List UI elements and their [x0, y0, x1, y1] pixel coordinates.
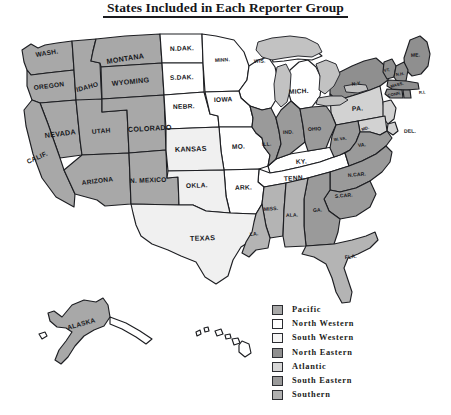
legend-swatch-north-eastern	[272, 348, 283, 358]
state-washington[interactable]	[22, 41, 74, 75]
alaska-aleutian-1	[39, 332, 47, 339]
label-north-dakota: N.DAK.	[170, 44, 194, 52]
label-virginia: VA.	[357, 141, 366, 148]
legend-swatch-southern	[272, 390, 283, 400]
label-minnesota: MINN.	[215, 56, 231, 63]
label-georgia: GA.	[313, 206, 323, 213]
legend-label-south-western: South Western	[292, 333, 354, 343]
state-texas[interactable]	[131, 204, 258, 284]
legend-label-north-eastern: North Eastern	[292, 348, 353, 358]
label-kansas: KANSAS	[175, 144, 207, 154]
legend-item-atlantic[interactable]: Atlantic	[272, 360, 392, 374]
label-pennsylvania: PA.	[352, 104, 364, 112]
label-missouri: MO.	[232, 143, 245, 150]
legend-item-southern[interactable]: Southern	[272, 388, 392, 402]
state-minnesota[interactable]	[202, 34, 249, 92]
label-iowa: IOWA	[214, 95, 233, 103]
label-arkansas: ARK.	[235, 183, 252, 191]
label-mississippi: MISS.	[264, 205, 279, 212]
legend-item-north-western[interactable]: North Western	[272, 317, 392, 331]
legend-swatch-south-eastern	[272, 376, 283, 386]
state-arkansas[interactable]	[224, 169, 264, 214]
label-indiana: IND.	[283, 128, 294, 135]
legend-label-north-western: North Western	[292, 319, 354, 329]
legend-label-atlantic: Atlantic	[292, 362, 326, 372]
legend-item-pacific[interactable]: Pacific	[272, 303, 392, 317]
state-alaska[interactable]	[48, 298, 110, 364]
alaska-panhandle	[110, 317, 152, 344]
legend-swatch-north-western	[272, 319, 283, 329]
label-delaware: DEL.	[404, 128, 417, 134]
label-new-mexico: N. MEXICO	[130, 176, 167, 184]
label-vermont: VT.	[383, 67, 390, 73]
label-kentucky: KY.	[296, 157, 307, 165]
label-south-dakota: S.DAK.	[170, 73, 194, 81]
legend-item-south-eastern[interactable]: South Eastern	[272, 374, 392, 388]
label-texas: TEXAS	[190, 233, 216, 243]
label-tennessee: TENN.	[284, 174, 305, 182]
label-oklahoma: OKLA.	[186, 181, 208, 189]
legend-item-south-western[interactable]: South Western	[272, 331, 392, 345]
lake-michigan	[274, 64, 291, 107]
map-figure: States Included in Each Reporter Group	[0, 0, 451, 415]
label-rhode-island: R.I.	[419, 90, 426, 95]
legend-label-pacific: Pacific	[292, 305, 321, 315]
label-illinois: ILL.	[262, 140, 272, 147]
reporter-group-legend: Pacific North Western South Western Nort…	[272, 303, 392, 402]
legend-swatch-atlantic	[272, 362, 283, 372]
state-hawaii[interactable]	[196, 327, 251, 357]
state-rhode-island[interactable]	[403, 90, 411, 98]
label-louisiana: LA.	[249, 230, 259, 237]
label-nebraska: NEBR.	[173, 102, 195, 110]
legend-item-north-eastern[interactable]: North Eastern	[272, 346, 392, 360]
legend-swatch-south-western	[272, 333, 283, 343]
label-maine: ME.	[411, 51, 421, 58]
lake-superior	[256, 36, 322, 60]
label-wisconsin: WIS.	[254, 57, 266, 64]
legend-label-southern: Southern	[292, 390, 331, 400]
label-michigan: MICH.	[289, 87, 309, 95]
label-ohio: OHIO	[308, 125, 322, 132]
legend-label-south-eastern: South Eastern	[292, 376, 352, 386]
label-alabama: ALA.	[286, 211, 299, 218]
legend-swatch-pacific	[272, 305, 283, 315]
label-florida: FLA.	[344, 253, 357, 260]
